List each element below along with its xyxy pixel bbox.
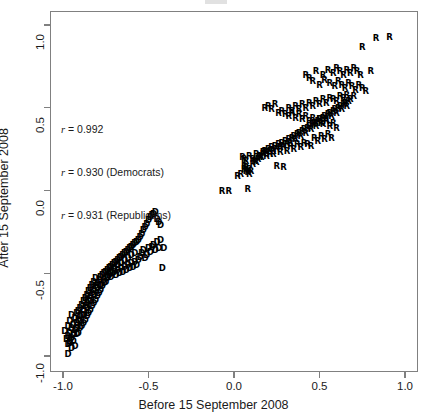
x-axis-tick [62, 372, 63, 378]
y-axis-tick-label: -0.5 [34, 273, 46, 307]
annotation-line-overall: r = 0.992 [61, 122, 171, 137]
x-axis-title: Before 15 September 2008 [0, 398, 427, 412]
x-axis-tick [404, 372, 405, 378]
y-axis-tick-label: 1.0 [34, 25, 46, 59]
annotation-overall-value: = 0.992 [65, 123, 103, 135]
x-axis-tick [233, 372, 234, 378]
x-axis-tick [319, 372, 320, 378]
y-axis-tick-label: 0.5 [34, 108, 46, 142]
x-axis-tick-label: 1.0 [397, 380, 413, 392]
annotation-republicans-value: = 0.931 (Republicans) [65, 209, 171, 221]
annotation-democrats-value: = 0.930 (Democrats) [65, 166, 164, 178]
x-axis-tick-label: -0.5 [139, 380, 159, 392]
scatter-plot-figure: -1.0-0.50.00.51.0-1.0-0.50.00.51.0 DDDDD… [0, 0, 427, 416]
x-axis-tick-label: 0.5 [312, 380, 328, 392]
y-axis-tick-label: -1.0 [34, 356, 46, 390]
cropped-title-artifact [205, 0, 227, 4]
x-axis-tick-label: 0.0 [226, 380, 242, 392]
correlation-annotation: r = 0.992 r = 0.930 (Democrats) r = 0.93… [61, 94, 171, 251]
x-axis-tick-label: -1.0 [53, 380, 73, 392]
x-axis-tick [148, 372, 149, 378]
annotation-line-republicans: r = 0.931 (Republicans) [61, 208, 171, 223]
annotation-line-democrats: r = 0.930 (Democrats) [61, 165, 171, 180]
y-axis-tick-label: 0.0 [34, 191, 46, 225]
y-axis-title: After 15 September 2008 [0, 128, 11, 268]
